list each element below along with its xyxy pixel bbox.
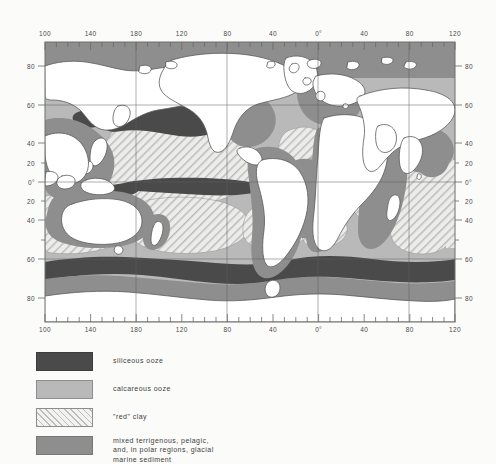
legend-item-siliceous: siliceous ooze <box>36 352 336 372</box>
land-iceland <box>303 78 311 85</box>
axis-top-tick-7: 40 <box>360 30 368 37</box>
land-med-island-a <box>343 104 348 109</box>
right-ticks <box>455 66 462 298</box>
axis-bottom-tick-6: 0° <box>315 326 322 333</box>
legend-swatch-mixed-sediment <box>36 436 93 455</box>
axis-right-tick-0: 80 <box>465 63 473 70</box>
legend-swatch-red-clay <box>36 408 93 427</box>
axis-top-tick-9: 120 <box>449 30 461 37</box>
axis-left-tick-7: 60 <box>27 256 35 263</box>
axis-top-tick-0: 100 <box>39 30 51 37</box>
legend-item-mixed: mixed terrigenous, pelagic, and, in pola… <box>36 436 336 464</box>
land-australia <box>62 199 143 245</box>
legend-label-red-clay: "red" clay <box>113 408 147 421</box>
land-arabia <box>376 124 397 152</box>
sediment-distribution-figure: 100 140 180 120 80 40 0° 40 80 120 100 1… <box>0 0 496 464</box>
axis-left-tick-8: 80 <box>27 295 35 302</box>
legend-label-mixed-sediment: mixed terrigenous, pelagic, and, in pola… <box>113 436 214 464</box>
axis-left-tick-6: 40 <box>27 217 35 224</box>
axis-right-tick-2: 40 <box>465 140 473 147</box>
axis-left-tick-0: 80 <box>27 63 35 70</box>
axis-bottom-tick-8: 80 <box>406 326 414 333</box>
axis-bottom-tick-3: 120 <box>176 326 188 333</box>
land-tasmania <box>114 246 123 255</box>
legend-label-calcareous-ooze: calcareous ooze <box>113 380 171 393</box>
axis-bottom-tick-2: 180 <box>130 326 142 333</box>
axis-right-tick-8: 80 <box>465 295 473 302</box>
axis-right-tick-3: 20 <box>465 160 473 167</box>
axis-bottom-tick-0: 100 <box>39 326 51 333</box>
axis-right-tick-4: 0° <box>465 179 472 186</box>
legend-item-calcareous: calcareous ooze <box>36 380 336 400</box>
land-arctic-island-d <box>404 61 416 69</box>
land-novaya-zemlya <box>289 63 299 73</box>
axis-bottom-tick-5: 40 <box>269 326 277 333</box>
legend-item-red-clay: "red" clay <box>36 408 336 428</box>
axis-top-tick-4: 80 <box>223 30 231 37</box>
axis-right-tick-1: 60 <box>465 102 473 109</box>
axis-left-tick-4: 0° <box>28 179 35 186</box>
land-arctic-island-b <box>347 61 359 70</box>
axis-top-tick-1: 140 <box>85 30 97 37</box>
land-british-isles <box>316 91 325 101</box>
axis-right-tick-5: 20 <box>465 198 473 205</box>
axis-top-tick-2: 180 <box>130 30 142 37</box>
axis-bottom-tick-7: 40 <box>360 326 368 333</box>
axis-bottom-tick-9: 120 <box>449 326 461 333</box>
axis-bottom-tick-4: 80 <box>223 326 231 333</box>
axis-left-tick-3: 20 <box>27 160 35 167</box>
axis-left-tick-1: 60 <box>27 102 35 109</box>
axis-left-tick-5: 20 <box>27 198 35 205</box>
axis-top-tick-6: 0° <box>315 30 322 37</box>
land-sri-lanka <box>417 174 421 180</box>
left-ticks <box>38 66 45 298</box>
axis-top-tick-8: 80 <box>406 30 414 37</box>
axis-right-tick-7: 60 <box>465 256 473 263</box>
land-arctic-island-a <box>307 59 321 68</box>
map-legend: siliceous ooze calcareous ooze "red" cla… <box>36 352 336 464</box>
land-svalbard <box>267 61 275 68</box>
legend-swatch-siliceous-ooze <box>36 352 93 371</box>
map-body <box>45 42 455 322</box>
axis-right-tick-6: 40 <box>465 217 473 224</box>
axis-left-tick-2: 40 <box>27 140 35 147</box>
land-antarctic-peninsula <box>265 280 280 297</box>
axis-top-tick-5: 40 <box>269 30 277 37</box>
land-arctic-island-c <box>382 57 393 64</box>
land-arctic-island-e <box>139 65 151 74</box>
legend-swatch-calcareous-ooze <box>36 380 93 399</box>
legend-label-siliceous-ooze: siliceous ooze <box>113 352 163 365</box>
axis-top-tick-3: 120 <box>176 30 188 37</box>
axis-bottom-tick-1: 140 <box>85 326 97 333</box>
land-arctic-island-f <box>166 61 177 69</box>
